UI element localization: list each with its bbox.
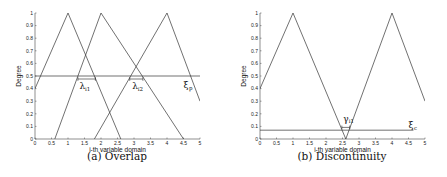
y-tick-label: 0.6 — [26, 60, 33, 66]
x-tick-label: 4.5 — [180, 140, 187, 146]
y-tick-label: 0.4 — [251, 85, 258, 91]
chart-panel-overlap: 00.511.522.533.544.5500.10.20.30.40.50.6… — [15, 10, 202, 162]
annotation-ξc: ξ — [409, 120, 414, 130]
series-line-mf1 — [260, 13, 346, 139]
x-tick-label: 1.5 — [81, 140, 88, 146]
x-tick-label: 1.5 — [306, 140, 313, 146]
x-tick-label: 4 — [391, 140, 394, 146]
svg-text:c: c — [414, 125, 417, 131]
y-tick-label: 0 — [30, 136, 33, 142]
y-axis-label: Degree — [240, 65, 248, 87]
y-tick-label: 0.3 — [251, 98, 258, 104]
y-tick-label: 0.9 — [26, 22, 33, 28]
svg-text:i2: i2 — [138, 86, 143, 92]
y-tick-label: 0.3 — [26, 98, 33, 104]
x-tick-label: 5 — [424, 140, 427, 146]
y-tick-label: 0.8 — [251, 35, 258, 41]
x-tick-label: 4.5 — [405, 140, 412, 146]
y-tick-label: 1 — [30, 10, 33, 16]
y-tick-label: 0.8 — [26, 35, 33, 41]
y-tick-label: 0.6 — [251, 60, 258, 66]
y-tick-label: 0.2 — [26, 111, 33, 117]
chart-panel-discontinuity: 00.511.522.533.544.5500.10.20.30.40.50.6… — [240, 10, 427, 162]
x-tick-label: 3.5 — [147, 140, 154, 146]
x-tick-label: 5 — [199, 140, 202, 146]
y-tick-label: 0.1 — [26, 123, 33, 129]
y-tick-label: 0.4 — [26, 85, 33, 91]
svg-text:i1: i1 — [349, 118, 354, 124]
svg-text:i1: i1 — [85, 86, 90, 92]
y-tick-label: 1 — [255, 10, 258, 16]
svg-text:p: p — [189, 85, 193, 92]
x-tick-label: 0 — [259, 140, 262, 146]
x-tick-label: 1 — [292, 140, 295, 146]
figure-caption: (b) Discontinuity — [298, 150, 387, 162]
y-tick-label: 0.9 — [251, 22, 258, 28]
x-tick-label: 1 — [67, 140, 70, 146]
x-tick-label: 4 — [166, 140, 169, 146]
x-tick-label: 0.5 — [48, 140, 55, 146]
figure-caption: (a) Overlap — [87, 150, 147, 162]
x-tick-label: 0 — [34, 140, 37, 146]
y-tick-label: 0 — [255, 136, 258, 142]
y-tick-label: 0.5 — [26, 73, 33, 79]
annotation-ξp: ξ — [184, 80, 189, 90]
y-tick-label: 0.7 — [251, 48, 258, 54]
y-axis-label: Degree — [15, 65, 23, 87]
x-tick-label: 0.5 — [273, 140, 280, 146]
y-tick-label: 0.5 — [251, 73, 258, 79]
y-tick-label: 0.1 — [251, 123, 258, 129]
x-tick-label: 3.5 — [372, 140, 379, 146]
y-tick-label: 0.2 — [251, 111, 258, 117]
figure: 00.511.522.533.544.5500.10.20.30.40.50.6… — [0, 0, 447, 177]
y-tick-label: 0.7 — [26, 48, 33, 54]
